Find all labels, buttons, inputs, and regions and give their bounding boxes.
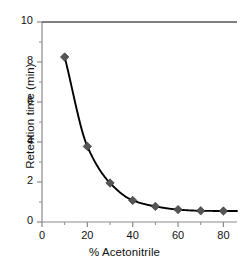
data-point-marker: [197, 207, 205, 215]
chart-container: Retention time (min) % Acetonitrile 0 2 …: [0, 0, 249, 270]
plot-area: [0, 0, 249, 270]
data-point-marker: [219, 207, 227, 215]
data-markers: [60, 53, 227, 215]
data-point-marker: [151, 202, 159, 210]
data-point-marker: [60, 53, 68, 61]
data-curve: [65, 57, 237, 211]
axis-frame: [42, 22, 237, 222]
data-point-marker: [83, 142, 91, 150]
data-point-marker: [129, 196, 137, 204]
data-point-marker: [174, 205, 182, 213]
